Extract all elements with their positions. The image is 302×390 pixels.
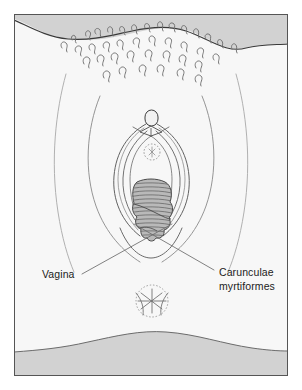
label-vagina: Vagina — [42, 268, 75, 280]
label-carunculae-line1: Carunculae — [219, 266, 274, 278]
label-carunculae-line2: myrtiformes — [219, 280, 275, 292]
anatomical-figure: Vagina Carunculae myrtiformes — [0, 0, 302, 390]
illustration-plate — [14, 14, 288, 376]
figure-canvas: Vagina Carunculae myrtiformes — [0, 0, 302, 390]
clitoral-glans — [145, 110, 158, 126]
